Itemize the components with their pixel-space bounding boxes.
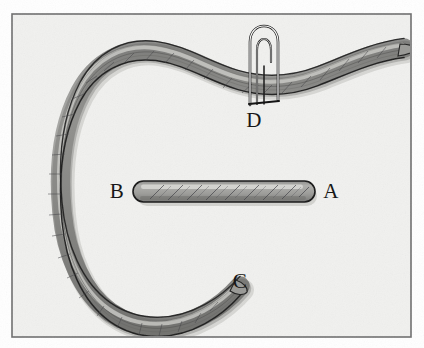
label-d: D bbox=[246, 108, 262, 132]
label-a: A bbox=[323, 179, 339, 203]
figure-root: A B C D bbox=[0, 0, 424, 348]
rope-diagram-illustration: A B C D bbox=[0, 0, 424, 348]
label-b: B bbox=[110, 179, 125, 203]
straight-rope-segment bbox=[133, 181, 317, 206]
label-c: C bbox=[233, 269, 248, 293]
